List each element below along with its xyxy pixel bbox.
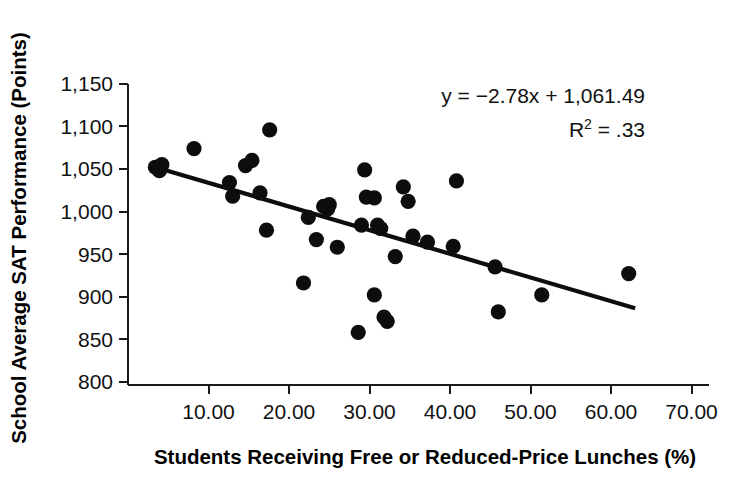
data-point <box>244 153 259 168</box>
data-point <box>357 162 372 177</box>
x-axis-tick-label: 50.00 <box>504 400 557 423</box>
data-point <box>322 197 337 212</box>
data-point <box>380 314 395 329</box>
data-point <box>367 287 382 302</box>
y-axis-tick-label: 1,150 <box>60 72 113 95</box>
data-point <box>401 194 416 209</box>
x-axis-tick-label: 10.00 <box>182 400 235 423</box>
y-axis-tick-label: 1,100 <box>60 115 113 138</box>
r-squared-exponent: 2 <box>584 116 592 132</box>
r-squared-value: = .33 <box>592 118 645 141</box>
x-axis-tick-label: 20.00 <box>263 400 316 423</box>
scatter-plot-figure: 8008509009501,0001,0501,1001,150 10.0020… <box>0 0 746 477</box>
data-point <box>330 240 345 255</box>
data-point <box>309 232 324 247</box>
regression-equation-label: y = −2.78x + 1,061.49 <box>441 84 645 107</box>
y-axis-tick-label: 900 <box>78 285 113 308</box>
data-point <box>621 266 636 281</box>
y-axis-tick-label: 1,050 <box>60 157 113 180</box>
data-point <box>351 325 366 340</box>
data-point <box>396 179 411 194</box>
r-squared-label: R2 = .33 <box>569 116 645 141</box>
r-squared-letter: R <box>569 118 584 141</box>
data-point <box>491 304 506 319</box>
data-point <box>449 173 464 188</box>
data-point <box>534 287 549 302</box>
data-point <box>259 223 274 238</box>
y-axis-tick-label: 1,000 <box>60 200 113 223</box>
x-axis-tick-label: 70.00 <box>665 400 718 423</box>
y-axis-tick-label: 800 <box>78 370 113 393</box>
x-axis-title: Students Receiving Free or Reduced-Price… <box>154 445 696 468</box>
data-point <box>186 141 201 156</box>
data-point <box>367 190 382 205</box>
x-axis-tick-label: 30.00 <box>343 400 396 423</box>
data-point <box>262 122 277 137</box>
y-axis-tick-label: 850 <box>78 328 113 351</box>
data-point <box>388 249 403 264</box>
x-axis-tick-label: 60.00 <box>585 400 638 423</box>
data-point <box>296 275 311 290</box>
plot-canvas: 8008509009501,0001,0501,1001,150 10.0020… <box>0 0 746 477</box>
y-axis-tick-label: 950 <box>78 243 113 266</box>
y-axis-title: School Average SAT Performance (Points) <box>7 32 30 444</box>
x-axis-tick-label: 40.00 <box>424 400 477 423</box>
